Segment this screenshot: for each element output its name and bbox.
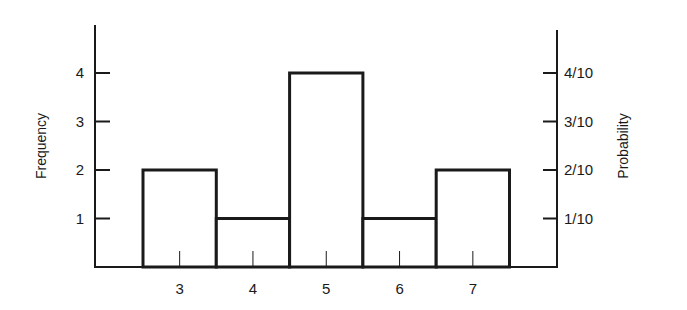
left-tick-label: 4 (76, 64, 84, 81)
left-tick-label: 3 (76, 113, 84, 130)
bar-5 (290, 73, 363, 267)
right-tick-label: 2/10 (564, 161, 593, 178)
right-tick-label: 4/10 (564, 64, 593, 81)
bars-group (143, 73, 510, 267)
left-y-ticks: 1234 (76, 64, 110, 227)
histogram-chart: 1234 1/102/103/104/10 34567 Frequency Pr… (0, 0, 687, 310)
x-tick-label: 4 (249, 280, 257, 297)
x-tick-label: 3 (175, 280, 183, 297)
x-tick-label: 6 (395, 280, 403, 297)
y-axis-title-frequency: Frequency (33, 113, 49, 179)
y-axis-title-probability: Probability (615, 113, 631, 178)
x-tick-label: 7 (469, 280, 477, 297)
right-y-ticks: 1/102/103/104/10 (543, 64, 593, 227)
left-tick-label: 2 (76, 161, 84, 178)
right-tick-label: 3/10 (564, 113, 593, 130)
left-tick-label: 1 (76, 210, 84, 227)
right-tick-label: 1/10 (564, 210, 593, 227)
x-tick-label: 5 (322, 280, 330, 297)
